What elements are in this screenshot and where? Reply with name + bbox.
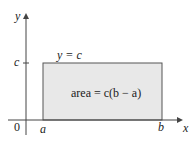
origin-label: 0 (14, 121, 20, 133)
area-label: area = c(b − a) (71, 87, 141, 99)
line-label: y = c (57, 49, 82, 61)
b-label: b (158, 121, 164, 133)
x-axis-label: x (183, 122, 188, 134)
a-label: a (40, 123, 46, 135)
y-axis-label: y (15, 10, 20, 22)
c-label: c (14, 56, 19, 68)
y-axis-arrow-icon (23, 13, 29, 19)
